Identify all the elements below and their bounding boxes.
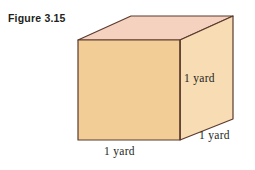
figure-container: Figure 3.15 1 yard 1 yard 1 yard: [0, 0, 255, 170]
cube-front-face: [78, 40, 180, 140]
dimension-label-width: 1 yard: [104, 145, 135, 157]
dimension-label-height: 1 yard: [184, 72, 215, 84]
dimension-label-depth: 1 yard: [199, 129, 230, 141]
